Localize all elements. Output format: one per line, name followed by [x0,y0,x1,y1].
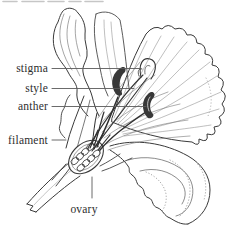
flower-diagram: stigma style anther filament ovary [0,0,230,229]
ovary-drawing [62,134,110,181]
label-style: style [0,82,48,94]
flower-illustration [0,0,230,229]
label-stigma: stigma [0,62,48,74]
leader-lines [52,69,146,199]
label-anther: anther [0,100,48,112]
left-petal [53,8,99,138]
label-ovary: ovary [58,203,110,215]
anther-drawing [112,67,154,118]
lower-petal [110,142,210,224]
label-filament: filament [0,134,48,146]
